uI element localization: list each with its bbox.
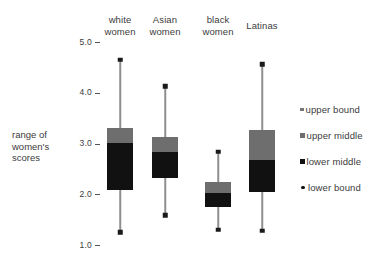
- upper-bound-swatch-icon: [300, 108, 304, 112]
- y-axis-tick-label: 3.0: [58, 139, 92, 148]
- legend-label: lower bound: [308, 182, 361, 193]
- column-header-latinas: Latinas: [230, 20, 294, 32]
- y-axis-tick-label: 5.0: [58, 38, 92, 47]
- legend-label: upper middle: [307, 130, 363, 141]
- y-axis-tick-label: 2.0: [58, 190, 92, 199]
- boxplot-chart: white women Asian women black women Lati…: [0, 0, 392, 266]
- y-axis-tick-label: 4.0: [58, 88, 92, 97]
- upper-middle-box[interactable]: [107, 128, 133, 143]
- lower-middle-box[interactable]: [107, 143, 133, 190]
- column-header-line-1: Latinas: [230, 20, 294, 32]
- lower-bound-marker: [118, 230, 123, 235]
- y-axis-title-line-3: scores: [12, 152, 72, 164]
- upper-bound-marker: [118, 58, 123, 63]
- lower-middle-box[interactable]: [249, 160, 275, 192]
- legend-item-upper-middle: upper middle: [300, 130, 363, 141]
- lower-bound-marker: [163, 213, 168, 218]
- lower-bound-swatch-icon: [301, 186, 305, 190]
- legend-item-lower-middle: lower middle: [300, 156, 361, 167]
- upper-bound-marker: [260, 62, 265, 67]
- lower-bound-marker: [260, 229, 265, 234]
- y-axis-tick-mark: [95, 42, 100, 43]
- legend-item-upper-bound: upper bound: [300, 104, 360, 115]
- y-axis-tick-mark: [95, 194, 100, 195]
- upper-bound-marker: [216, 149, 221, 154]
- upper-middle-box[interactable]: [249, 130, 275, 160]
- y-axis-tick-mark: [95, 245, 100, 246]
- y-axis-tick-mark: [95, 93, 100, 94]
- legend-label: upper bound: [306, 104, 360, 115]
- lower-bound-marker: [216, 228, 221, 233]
- legend-label: lower middle: [307, 156, 362, 167]
- upper-bound-marker: [163, 84, 168, 89]
- legend-item-lower-bound: lower bound: [300, 182, 361, 193]
- y-axis-tick-label: 1.0: [58, 241, 92, 250]
- y-axis-tick-mark: [95, 144, 100, 145]
- lower-middle-box[interactable]: [152, 152, 178, 178]
- lower-middle-box[interactable]: [205, 193, 231, 207]
- upper-middle-box[interactable]: [205, 182, 231, 193]
- lower-middle-swatch-icon: [300, 159, 305, 164]
- upper-middle-swatch-icon: [300, 133, 305, 138]
- upper-middle-box[interactable]: [152, 137, 178, 152]
